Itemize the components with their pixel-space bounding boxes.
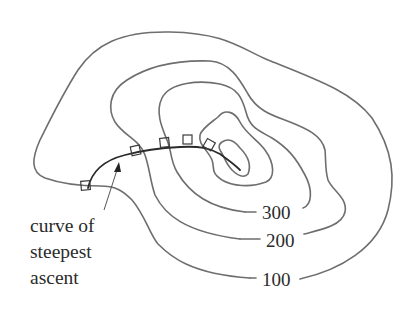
caption-line-2: steepest xyxy=(30,239,94,265)
caption-line-1: curve of xyxy=(30,213,94,239)
right-angle-marker xyxy=(130,145,141,156)
right-angle-marker xyxy=(183,135,192,144)
steepest-ascent-curve xyxy=(88,147,240,188)
arrow-head-icon xyxy=(114,162,121,172)
contour-line-inner-2 xyxy=(219,140,250,176)
contour-label-300: 300 xyxy=(262,202,291,223)
caption-line-3: ascent xyxy=(30,265,94,291)
contour-label-200: 200 xyxy=(266,230,295,251)
contour-label-100: 100 xyxy=(262,269,291,290)
annotation-arrow-line xyxy=(104,170,117,210)
curve-caption: curve of steepest ascent xyxy=(30,213,94,291)
